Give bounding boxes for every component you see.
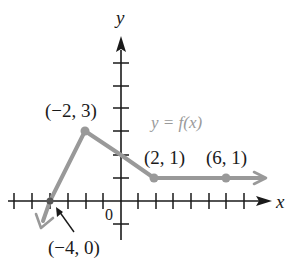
function-graph: y x 0 y = f(x) (−2, 3) (2, 1) (6, 1) (−4…	[0, 0, 288, 275]
point-label-neg2-3: (−2, 3)	[45, 100, 97, 122]
point-label-2-1: (2, 1)	[144, 147, 185, 169]
point-neg4-0	[47, 198, 54, 205]
point-6-1	[222, 174, 231, 183]
point-label-6-1: (6, 1)	[206, 147, 247, 169]
origin-label: 0	[105, 206, 113, 223]
y-axis-arrow-icon	[116, 36, 126, 52]
pointer-arrow-icon	[56, 207, 74, 232]
y-axis	[113, 36, 129, 240]
point-label-neg4-0: (−4, 0)	[48, 237, 100, 259]
point-neg2-3	[81, 127, 90, 136]
y-axis-label: y	[114, 7, 125, 28]
function-label: y = f(x)	[149, 113, 202, 132]
x-axis-label: x	[275, 191, 285, 212]
point-2-1	[150, 174, 159, 183]
